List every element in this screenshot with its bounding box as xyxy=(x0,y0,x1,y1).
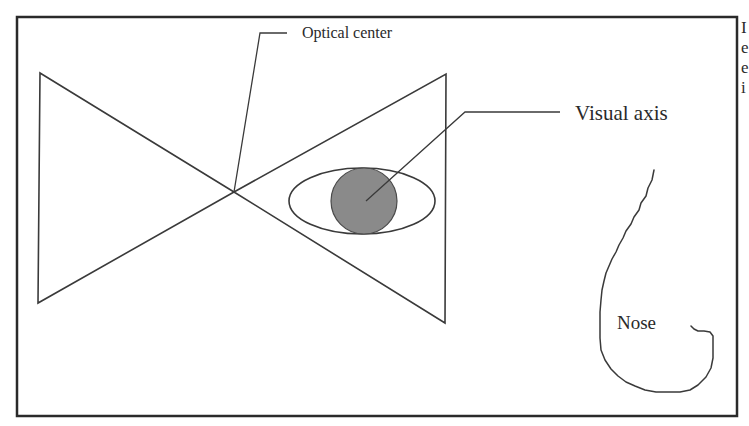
pupil xyxy=(331,168,397,234)
optical-center-leader xyxy=(234,33,287,192)
nose-label: Nose xyxy=(617,313,656,332)
visual-axis-leader xyxy=(366,112,560,201)
clipped-body-text: I e e i xyxy=(741,18,749,98)
left-view-cone xyxy=(38,73,234,303)
figure: Optical center Visual axis Nose I e e i xyxy=(0,0,749,426)
optical-center-label: Optical center xyxy=(302,25,392,41)
eye-optics-diagram xyxy=(0,0,749,426)
visual-axis-label: Visual axis xyxy=(575,103,668,124)
nose-profile xyxy=(600,170,713,392)
